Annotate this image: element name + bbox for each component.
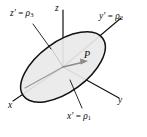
- label-z-prime-subscript: 3: [30, 11, 33, 18]
- label-z-prime: z′ = ρ3: [10, 9, 33, 19]
- label-y-prime-mark: ′: [103, 11, 105, 21]
- label-axis-z: z: [55, 4, 59, 14]
- label-z-prime-equals: =: [18, 8, 23, 18]
- label-x-prime-equals: =: [76, 111, 81, 121]
- label-x-prime: x′ = ρ1: [67, 112, 91, 122]
- label-y-prime: y′ = ρ2: [99, 12, 123, 22]
- label-y-prime-subscript: 2: [120, 14, 123, 21]
- label-axis-x: x: [8, 101, 12, 111]
- label-axis-y: y: [118, 96, 122, 106]
- label-y-prime-equals: =: [108, 11, 113, 21]
- leader-line-z-prime: [33, 24, 51, 49]
- label-x-prime-subscript: 1: [88, 114, 91, 121]
- label-z-prime-mark: ′: [14, 8, 16, 18]
- label-x-prime-mark: ′: [71, 111, 73, 121]
- label-point-p: P: [84, 50, 90, 60]
- figure-3d-axes-ellipse: z′ = ρ3 y′ = ρ2 x′ = ρ1 z x y P: [0, 0, 147, 137]
